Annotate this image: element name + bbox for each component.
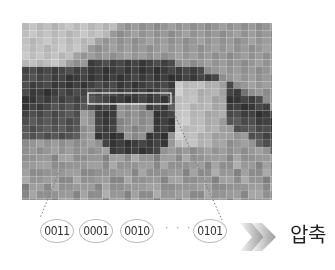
bit-code: 0011 (40, 219, 74, 243)
bit-code: 0010 (120, 219, 154, 243)
pixelated-eye-image (22, 23, 272, 200)
ellipsis: · · · (165, 221, 192, 234)
bit-code: 0101 (193, 219, 227, 243)
bit-code-row: 0011 0001 0010 0101 (38, 219, 238, 243)
compression-label: 압축 (290, 219, 326, 248)
double-chevron-arrow-icon (238, 219, 278, 255)
bit-code: 0001 (79, 219, 113, 243)
